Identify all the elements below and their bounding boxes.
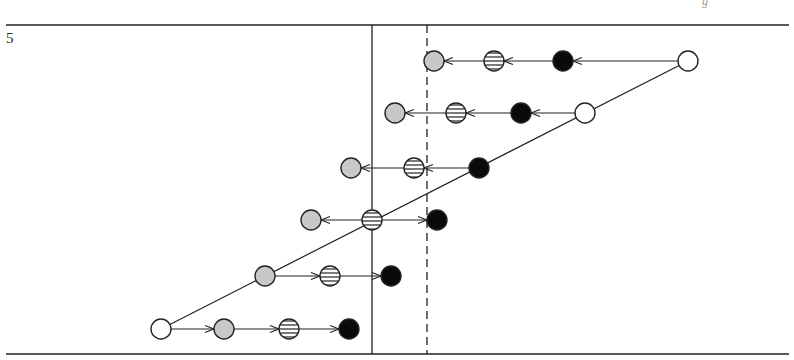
black-circle-node — [427, 210, 447, 230]
frame-rules — [6, 25, 789, 354]
arrow — [531, 110, 575, 117]
striped-circle-node — [320, 266, 340, 286]
diagonal-line — [161, 61, 688, 329]
grey-circle-node — [214, 319, 234, 339]
black-circle-node — [511, 103, 531, 123]
striped-circle-node — [279, 319, 299, 339]
arrow — [382, 217, 427, 224]
arrow — [171, 326, 214, 333]
state-transition-diagram — [0, 0, 794, 360]
grey-circle-node — [341, 158, 361, 178]
black-circle-node — [381, 266, 401, 286]
black-circle-node — [469, 158, 489, 178]
arrow — [275, 273, 320, 280]
arrow — [573, 58, 678, 65]
white-circle-node — [151, 319, 171, 339]
striped-circle-node — [484, 51, 504, 71]
white-circle-node — [678, 51, 698, 71]
grey-circle-node — [301, 210, 321, 230]
arrow — [424, 165, 469, 172]
arrow — [444, 58, 484, 65]
striped-circle-node — [404, 158, 424, 178]
arrow — [405, 110, 446, 117]
diagonal — [161, 61, 688, 329]
striped-circle-node — [446, 103, 466, 123]
reference-lines — [372, 25, 427, 354]
arrow — [361, 165, 404, 172]
arrow — [466, 110, 511, 117]
black-circle-node — [339, 319, 359, 339]
white-circle-node — [575, 103, 595, 123]
arrow — [321, 217, 362, 224]
grey-circle-node — [424, 51, 444, 71]
grey-circle-node — [385, 103, 405, 123]
arrow — [234, 326, 279, 333]
grey-circle-node — [255, 266, 275, 286]
arrow — [299, 326, 339, 333]
striped-circle-node — [362, 210, 382, 230]
arrow — [340, 273, 381, 280]
arrow — [504, 58, 553, 65]
black-circle-node — [553, 51, 573, 71]
